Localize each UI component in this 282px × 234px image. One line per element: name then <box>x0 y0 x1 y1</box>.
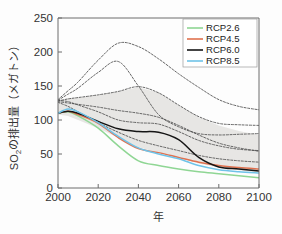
legend-label-rcp85: RCP8.5 <box>206 55 240 66</box>
x-tick-2000: 2000 <box>45 191 71 203</box>
y-tick-250: 250 <box>34 12 53 24</box>
x-tick-labels: 2000 2020 2040 2060 2080 2100 <box>45 191 272 203</box>
x-tick-marks <box>58 184 259 188</box>
legend-label-rcp60: RCP6.0 <box>206 44 240 55</box>
y-tick-100: 100 <box>34 114 53 126</box>
y-tick-200: 200 <box>34 46 53 58</box>
y-axis-label-so: SO <box>8 154 20 170</box>
y-axis-label: SO2の排出量（メガトン） <box>7 40 23 170</box>
x-tick-2080: 2080 <box>206 191 232 203</box>
y-tick-50: 50 <box>40 148 53 160</box>
y-tick-labels: 250 200 150 100 50 0 <box>34 12 53 194</box>
x-tick-2100: 2100 <box>246 191 272 203</box>
x-tick-2020: 2020 <box>85 191 111 203</box>
chart-legend: RCP2.6 RCP4.5 RCP6.0 RCP8.5 <box>183 19 257 67</box>
chart-figure: 250 200 150 100 50 0 SO2の排出量（メガトン） <box>0 0 282 234</box>
x-tick-2040: 2040 <box>126 191 152 203</box>
y-tick-150: 150 <box>34 80 53 92</box>
x-axis-label: 年 <box>153 210 164 223</box>
legend-label-rcp26: RCP2.6 <box>206 22 240 33</box>
so2-emissions-line-chart: 250 200 150 100 50 0 SO2の排出量（メガトン） <box>0 0 282 234</box>
y-axis-label-text: SO2の排出量（メガトン） <box>7 40 23 170</box>
x-tick-2060: 2060 <box>166 191 192 203</box>
legend-label-rcp45: RCP4.5 <box>206 33 240 44</box>
y-axis-label-rest: の排出量（メガトン） <box>7 40 20 150</box>
